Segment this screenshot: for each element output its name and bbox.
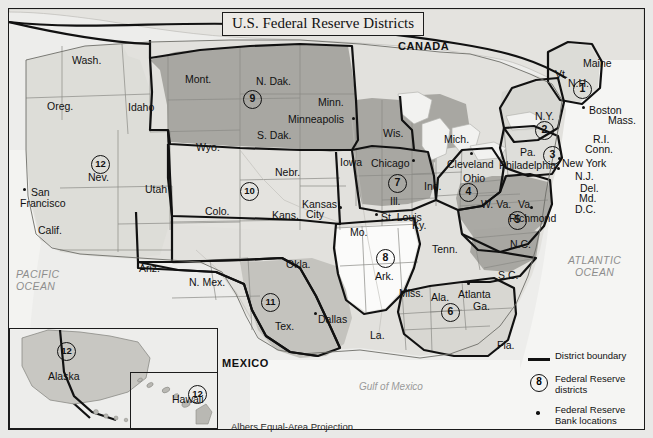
state-label-okla: Okla.	[286, 258, 311, 270]
district-marker-6-5: 6	[441, 303, 460, 322]
district-marker-9-8: 9	[243, 90, 262, 109]
state-label-miss: Miss.	[399, 287, 424, 299]
legend-districts-line1: Federal Reserve	[555, 373, 625, 384]
city-label-new-york: New York	[562, 157, 606, 169]
ocean-label-ocean: OCEAN	[16, 280, 55, 292]
city-label-chicago: Chicago	[371, 157, 410, 169]
projection-note: Albers Equal-Area Projection	[231, 421, 353, 432]
state-label-n-j: N.J.	[575, 170, 594, 182]
state-label-ill: Ill.	[390, 195, 401, 207]
state-label-w-va: W. Va.	[481, 198, 511, 210]
state-label-ark: Ark.	[375, 270, 394, 282]
state-label-mo: Mo.	[350, 226, 368, 238]
state-label-n-c: N.C.	[510, 238, 531, 250]
map-legend: District boundary 8 Federal Reserve dist…	[527, 352, 645, 437]
ocean-label-pacific: PACIFIC	[16, 268, 59, 280]
state-label-ga: Ga.	[473, 300, 490, 312]
district-marker-1-0: 1	[573, 80, 592, 99]
legend-districts-label: Federal Reserve districts	[555, 374, 625, 395]
district-number-icon: 8	[530, 374, 548, 392]
city-label-atlanta: Atlanta	[458, 288, 491, 300]
state-label-ala: Ala.	[431, 291, 449, 303]
legend-boundary-label: District boundary	[555, 351, 626, 362]
ocean-label-atlantic: ATLANTIC	[568, 254, 621, 266]
ocean-label-gulf-of-mexico: Gulf of Mexico	[359, 381, 423, 392]
state-label-d-c: D.C.	[575, 203, 596, 215]
state-label-idaho: Idaho	[128, 101, 154, 113]
city-label-francisco: Francisco	[20, 197, 66, 209]
bank-location-icon	[536, 411, 540, 415]
city-label-city: City	[306, 208, 324, 220]
state-label-mont: Mont.	[185, 73, 211, 85]
state-label-fla: Fla.	[497, 339, 515, 351]
state-label-maine: Maine	[583, 57, 612, 69]
district-marker-11-10: 11	[261, 293, 280, 312]
legend-banks-line1: Federal Reserve	[555, 404, 625, 415]
district-marker-12-11: 12	[91, 155, 110, 174]
country-label-mexico: MEXICO	[222, 357, 269, 369]
state-label-vt: Vt.	[555, 68, 568, 80]
legend-districts-line2: districts	[555, 384, 587, 395]
state-label-n-mex: N. Mex.	[189, 276, 225, 288]
district-marker-8-7: 8	[376, 249, 395, 268]
state-label-s-dak: S. Dak.	[257, 129, 291, 141]
legend-banks-row: Federal Reserve Bank locations	[527, 406, 645, 430]
state-label-ariz: Ariz.	[139, 262, 160, 274]
map-title: U.S. Federal Reserve Districts	[222, 12, 424, 36]
state-label-mich: Mich.	[444, 133, 469, 145]
legend-banks-line2: Bank locations	[555, 415, 617, 426]
state-label-tex: Tex.	[275, 320, 294, 332]
state-label-tenn: Tenn.	[432, 243, 458, 255]
state-label-wash: Wash.	[72, 54, 101, 66]
legend-boundary-row: District boundary	[527, 352, 645, 368]
state-label-wis: Wis.	[383, 127, 403, 139]
district-marker-3-2: 3	[543, 146, 562, 165]
state-label-calif: Calif.	[38, 224, 62, 236]
map-root: U.S. Federal Reserve Districts Wash.Oreg…	[0, 0, 653, 438]
state-label-nebr: Nebr.	[275, 166, 300, 178]
district-marker-12-13: 12	[188, 385, 207, 404]
state-label-conn: Conn.	[585, 143, 613, 155]
state-label-s-c: S.C.	[498, 269, 518, 281]
legend-banks-label: Federal Reserve Bank locations	[555, 405, 625, 426]
state-label-oreg: Oreg.	[47, 100, 73, 112]
city-label-dallas: Dallas	[318, 313, 347, 325]
district-marker-2-1: 2	[535, 121, 554, 140]
city-label-st-louis: St. Louis	[381, 211, 422, 223]
state-label-utah: Utah	[145, 183, 167, 195]
city-label-boston: Boston	[589, 104, 622, 116]
city-label-minneapolis: Minneapolis	[288, 113, 344, 125]
legend-districts-row: 8 Federal Reserve districts	[527, 375, 645, 399]
state-label-colo: Colo.	[205, 205, 230, 217]
state-label-la: La.	[370, 329, 385, 341]
country-label-canada: CANADA	[398, 40, 449, 52]
state-label-kans: Kans.	[272, 209, 299, 221]
state-label-n-dak: N. Dak.	[256, 75, 291, 87]
district-marker-7-6: 7	[388, 174, 407, 193]
state-label-alaska: Alaska	[48, 370, 80, 382]
state-label-ind: Ind.	[424, 180, 442, 192]
city-label-cleveland: Cleveland	[447, 158, 494, 170]
district-marker-12-12: 12	[57, 342, 76, 361]
state-label-iowa: Iowa	[340, 156, 362, 168]
state-label-pa: Pa.	[520, 146, 536, 158]
district-marker-5-4: 5	[508, 211, 527, 230]
district-marker-10-9: 10	[240, 182, 259, 201]
state-label-minn: Minn.	[318, 96, 344, 108]
ocean-label-ocean: OCEAN	[575, 266, 614, 278]
district-marker-4-3: 4	[459, 183, 478, 202]
state-label-wyo: Wyo.	[196, 141, 220, 153]
district-boundary-icon	[528, 358, 550, 361]
